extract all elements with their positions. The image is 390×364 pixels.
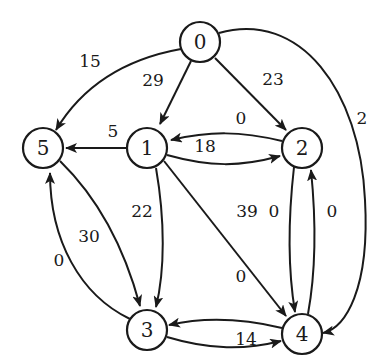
node-1: 1: [127, 128, 167, 168]
weight-label-3-4: 14: [235, 329, 257, 349]
edge-2-4: [290, 167, 295, 312]
node-label-0: 0: [194, 30, 207, 54]
weight-label-0-2: 23: [262, 69, 284, 89]
node-2: 2: [282, 128, 322, 168]
weight-label-0-1: 29: [142, 70, 164, 90]
edge-1-4: [164, 161, 286, 316]
edge-5-3: [60, 161, 140, 306]
edge-0-1: [160, 61, 191, 124]
weight-label-1-3: 22: [131, 201, 153, 221]
weight-label-1-2: 18: [194, 136, 216, 156]
node-label-2: 2: [296, 136, 309, 160]
edge-1-2: [167, 155, 280, 164]
edge-2-1: [171, 133, 282, 141]
node-label-4: 4: [296, 322, 309, 346]
weight-label-2-4: 0: [269, 201, 280, 221]
graph-diagram: 15 29 23 2 5 0 18 22 39 30 0 0 0 0 14 0 …: [0, 0, 390, 364]
weight-label-2-1: 0: [236, 108, 247, 128]
node-label-5: 5: [37, 136, 50, 160]
edge-4-3: [169, 320, 282, 328]
node-3: 3: [127, 310, 167, 350]
weight-label-3-5: 0: [54, 250, 65, 270]
weight-label-0-4: 2: [357, 108, 368, 128]
node-label-1: 1: [141, 136, 154, 160]
weight-label-1-5: 5: [108, 121, 119, 141]
weight-label-4-3: 0: [236, 266, 247, 286]
edge-4-2: [308, 170, 314, 314]
weight-label-4-2: 0: [327, 201, 338, 221]
node-label-3: 3: [141, 318, 154, 342]
node-4: 4: [282, 314, 322, 354]
edge-1-3: [156, 168, 163, 307]
weight-label-0-5: 15: [79, 51, 101, 71]
edge-3-4: [167, 337, 281, 347]
node-0: 0: [180, 22, 220, 62]
weight-label-1-4: 39: [236, 201, 258, 221]
weight-label-5-3: 30: [78, 226, 100, 246]
node-5: 5: [23, 128, 63, 168]
